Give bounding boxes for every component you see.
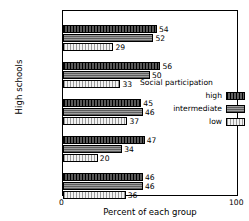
- bar-intermediate[interactable]: [63, 108, 143, 116]
- bar-value-label: 34: [124, 146, 134, 154]
- bar-value-label: 29: [115, 44, 125, 52]
- bar-intermediate[interactable]: [63, 34, 153, 42]
- chart-container: High schools Highline545229Kelso565033Lo…: [0, 0, 249, 221]
- legend-label-low: low: [209, 117, 222, 126]
- legend-swatch-high-icon: [226, 92, 245, 100]
- bar-value-label: 46: [145, 183, 155, 191]
- legend-label-intermediate: intermediate: [173, 104, 222, 113]
- legend-swatch-intermediate-icon: [226, 105, 245, 113]
- bar-low[interactable]: [63, 154, 98, 162]
- legend-item-high: high: [140, 91, 245, 100]
- bar-high[interactable]: [63, 25, 157, 33]
- bar-high[interactable]: [63, 62, 160, 70]
- legend-title: Social participation: [140, 78, 245, 87]
- bar-value-label: 56: [162, 63, 172, 71]
- bar-value-label: 36: [128, 192, 138, 200]
- bar-value-label: 52: [155, 35, 165, 43]
- chart-legend: Social participation high intermediate l…: [140, 78, 245, 126]
- x-axis-tick-max: 100: [229, 198, 244, 207]
- bar-intermediate[interactable]: [63, 71, 150, 79]
- x-axis-label: Percent of each group: [62, 207, 238, 217]
- bar-value-label: 46: [145, 174, 155, 182]
- bar-high[interactable]: [63, 136, 145, 144]
- bar-intermediate[interactable]: [63, 145, 122, 153]
- legend-label-high: high: [205, 91, 222, 100]
- bar-value-label: 47: [147, 137, 157, 145]
- y-axis-label: High schools: [14, 27, 24, 147]
- bar-low[interactable]: [63, 43, 113, 51]
- legend-item-intermediate: intermediate: [140, 104, 245, 113]
- bar-low[interactable]: [63, 80, 120, 88]
- legend-swatch-low-icon: [226, 118, 245, 126]
- bar-value-label: 54: [159, 26, 169, 34]
- x-axis-tick-min: 0: [59, 198, 64, 207]
- bar-high[interactable]: [63, 173, 143, 181]
- bar-value-label: 37: [129, 118, 139, 126]
- bar-low[interactable]: [63, 117, 127, 125]
- bar-low[interactable]: [63, 191, 126, 199]
- legend-item-low: low: [140, 117, 245, 126]
- bar-value-label: 33: [122, 81, 132, 89]
- bar-intermediate[interactable]: [63, 182, 143, 190]
- bar-high[interactable]: [63, 99, 141, 107]
- bar-value-label: 20: [100, 155, 110, 163]
